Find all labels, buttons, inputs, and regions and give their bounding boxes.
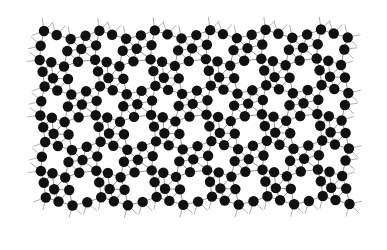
atom — [259, 65, 269, 75]
atom — [226, 171, 236, 181]
atom — [159, 73, 169, 83]
atom — [219, 140, 229, 150]
atom — [268, 111, 278, 121]
atom — [47, 168, 57, 178]
atom — [299, 154, 309, 164]
atom — [149, 121, 159, 131]
atom — [102, 57, 112, 67]
atom — [214, 72, 224, 82]
atom — [37, 67, 47, 77]
atom — [63, 101, 73, 111]
atom — [164, 196, 174, 206]
atom — [94, 177, 104, 187]
atom — [243, 98, 253, 108]
atom — [269, 72, 279, 82]
atom — [118, 101, 128, 111]
atom — [173, 45, 183, 55]
atom — [212, 56, 222, 66]
atom — [118, 46, 128, 56]
atom — [185, 167, 195, 177]
atom — [151, 136, 161, 146]
atom — [174, 156, 184, 166]
atom — [274, 84, 284, 94]
atom — [81, 86, 91, 96]
atom — [201, 54, 211, 64]
atom — [271, 183, 281, 193]
atom — [150, 25, 160, 35]
atom — [260, 176, 270, 186]
atom — [318, 191, 328, 201]
atom — [160, 184, 170, 194]
atom — [132, 44, 142, 54]
atom — [202, 95, 212, 105]
atom — [261, 80, 271, 90]
atom — [36, 41, 46, 51]
atom — [94, 26, 104, 36]
atom — [175, 184, 185, 194]
atom — [52, 30, 62, 40]
atom — [115, 172, 125, 182]
atom — [187, 43, 197, 53]
atom — [312, 53, 322, 63]
atom — [73, 112, 83, 122]
atom — [192, 141, 202, 151]
atom — [92, 151, 102, 161]
atom — [340, 128, 350, 138]
atom — [91, 40, 101, 50]
atom — [340, 100, 350, 110]
atom — [67, 145, 77, 155]
atom — [258, 150, 268, 160]
atom — [282, 171, 292, 181]
atom — [260, 25, 270, 35]
atom — [336, 115, 346, 125]
atom — [149, 177, 159, 187]
atom — [317, 135, 327, 145]
atom — [324, 167, 334, 177]
atom — [82, 142, 92, 152]
atom — [339, 44, 349, 54]
atom — [262, 136, 272, 146]
atom — [37, 152, 47, 162]
atom — [91, 166, 101, 176]
atom — [148, 66, 158, 76]
atom — [109, 196, 119, 206]
atom — [329, 84, 339, 94]
atom — [220, 195, 230, 205]
atom — [233, 144, 243, 154]
atom — [316, 80, 326, 90]
atom — [247, 85, 257, 95]
atom — [39, 178, 49, 188]
atom — [36, 166, 46, 176]
atom — [225, 60, 235, 70]
atom — [170, 61, 180, 71]
atom — [162, 29, 172, 39]
atom — [206, 80, 216, 90]
atom — [93, 66, 103, 76]
atom — [47, 113, 57, 123]
atom — [41, 192, 51, 202]
atom — [316, 24, 326, 34]
atom — [340, 72, 350, 82]
lattice-svg — [0, 0, 387, 250]
atom — [344, 199, 354, 209]
atom — [340, 155, 350, 165]
atom — [48, 73, 58, 83]
atoms — [35, 24, 355, 210]
atom — [330, 139, 340, 149]
atom — [170, 116, 180, 126]
atom — [184, 56, 194, 66]
atom — [230, 184, 240, 194]
atom — [218, 84, 228, 94]
atom — [281, 116, 291, 126]
atom — [294, 55, 304, 65]
atom — [215, 128, 225, 138]
atom — [129, 112, 139, 122]
atom — [273, 29, 283, 39]
atom — [314, 65, 324, 75]
atom — [248, 141, 258, 151]
atom — [158, 112, 168, 122]
atom — [63, 157, 73, 167]
atom — [302, 29, 312, 39]
atom — [82, 197, 92, 207]
atom — [341, 183, 351, 193]
